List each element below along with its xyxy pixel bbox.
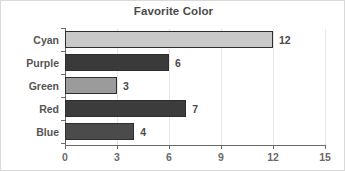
bar[interactable] bbox=[65, 77, 117, 94]
bar[interactable] bbox=[65, 100, 186, 117]
bar-row[interactable]: 7 bbox=[65, 100, 325, 117]
y-axis-tick bbox=[61, 74, 65, 75]
y-axis-tick bbox=[61, 28, 65, 29]
bar-row[interactable]: 4 bbox=[65, 123, 325, 140]
y-axis-category-label: Purple bbox=[3, 57, 59, 69]
y-axis-category-label: Green bbox=[3, 80, 59, 92]
x-axis-tick-label: 0 bbox=[62, 151, 68, 163]
bar-chart: Favorite Color CyanPurpleGreenRedBlue 12… bbox=[0, 0, 345, 171]
y-axis-tick bbox=[61, 143, 65, 144]
bar-value-label: 3 bbox=[123, 80, 129, 92]
bar[interactable] bbox=[65, 123, 134, 140]
x-axis-tick bbox=[221, 145, 222, 149]
y-axis-tick bbox=[61, 51, 65, 52]
plot-area: 126374 bbox=[65, 29, 325, 145]
x-axis-tick-label: 6 bbox=[166, 151, 172, 163]
bar-value-label: 4 bbox=[140, 126, 146, 138]
bar-row[interactable]: 12 bbox=[65, 31, 325, 48]
x-axis-tick-label: 12 bbox=[267, 151, 279, 163]
bar[interactable] bbox=[65, 31, 273, 48]
y-axis-tick bbox=[61, 120, 65, 121]
y-axis-category-label: Red bbox=[3, 103, 59, 115]
x-axis-tick bbox=[117, 145, 118, 149]
x-axis-tick bbox=[65, 145, 66, 149]
y-axis-category-label: Blue bbox=[3, 126, 59, 138]
x-axis-tick-label: 3 bbox=[114, 151, 120, 163]
bar-value-label: 7 bbox=[192, 103, 198, 115]
x-axis-tick bbox=[273, 145, 274, 149]
bar-row[interactable]: 3 bbox=[65, 77, 325, 94]
x-axis-tick-label: 15 bbox=[319, 151, 331, 163]
x-axis-tick-label: 9 bbox=[218, 151, 224, 163]
x-axis-tick bbox=[169, 145, 170, 149]
bar[interactable] bbox=[65, 54, 169, 71]
bar-value-label: 12 bbox=[279, 34, 291, 46]
y-axis-category-label: Cyan bbox=[3, 34, 59, 46]
bar-row[interactable]: 6 bbox=[65, 54, 325, 71]
x-axis-tick bbox=[325, 145, 326, 149]
y-axis-category-labels: CyanPurpleGreenRedBlue bbox=[1, 1, 59, 171]
bar-value-label: 6 bbox=[175, 57, 181, 69]
gridline bbox=[325, 29, 326, 145]
x-axis-line bbox=[65, 145, 326, 146]
y-axis-tick bbox=[61, 97, 65, 98]
